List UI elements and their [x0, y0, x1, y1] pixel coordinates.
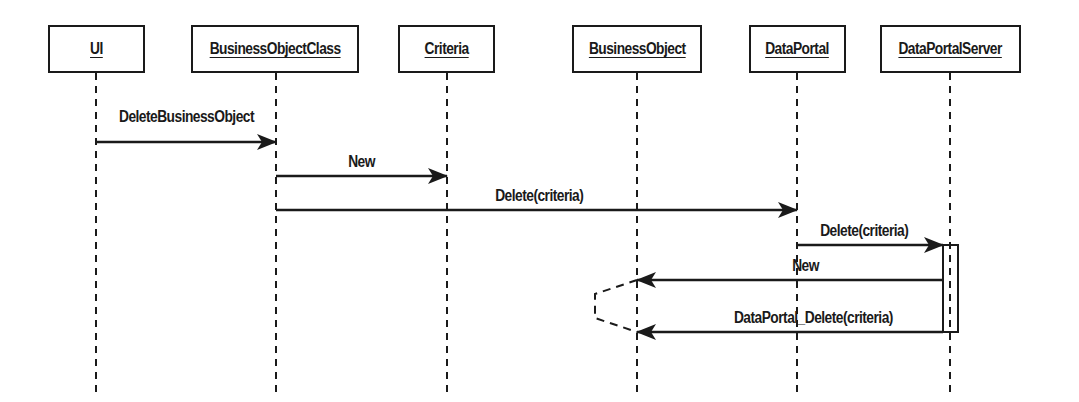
message-label-delete-criteria-to-server: Delete(criteria) [820, 222, 908, 240]
object-business-object-class: BusinessObjectClass [191, 25, 359, 73]
object-label-business-object: BusinessObject [589, 40, 686, 58]
self-link-dashed [595, 280, 637, 332]
message-label-new-business-object: New [792, 257, 819, 275]
object-business-object: BusinessObject [572, 25, 702, 73]
object-label-ui: UI [90, 40, 103, 58]
message-label-dataportal-delete: DataPortal_Delete(criteria) [733, 309, 892, 327]
message-label-delete-business-object: DeleteBusinessObject [118, 108, 253, 126]
object-label-data-portal: DataPortal [766, 40, 830, 58]
object-label-business-object-class: BusinessObjectClass [210, 40, 341, 58]
object-ui: UI [48, 25, 145, 73]
object-label-data-portal-server: DataPortalServer [899, 40, 1002, 58]
message-label-delete-criteria-to-dataportal: Delete(criteria) [495, 187, 583, 205]
object-label-criteria: Criteria [424, 40, 468, 58]
object-criteria: Criteria [398, 25, 495, 73]
message-label-new-criteria: New [348, 153, 375, 171]
sequence-diagram: UI BusinessObjectClass Criteria Business… [0, 0, 1079, 402]
object-data-portal: DataPortal [749, 25, 846, 73]
message-arrows [96, 142, 943, 332]
object-data-portal-server: DataPortalServer [880, 25, 1021, 73]
self-link-layer [595, 280, 637, 332]
